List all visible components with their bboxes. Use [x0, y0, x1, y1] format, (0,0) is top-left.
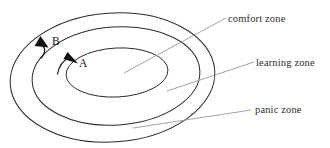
diagram-canvas: B A comfort zone learning zone panic zon… — [0, 0, 330, 148]
panic-zone-label: panic zone — [255, 104, 302, 115]
concentric-zones-diagram: B A comfort zone learning zone panic zon… — [0, 0, 330, 148]
comfort-zone-label: comfort zone — [228, 13, 286, 24]
marker-b-label: B — [52, 35, 60, 47]
marker-a-label: A — [79, 57, 88, 69]
learning-zone-label: learning zone — [256, 57, 315, 68]
